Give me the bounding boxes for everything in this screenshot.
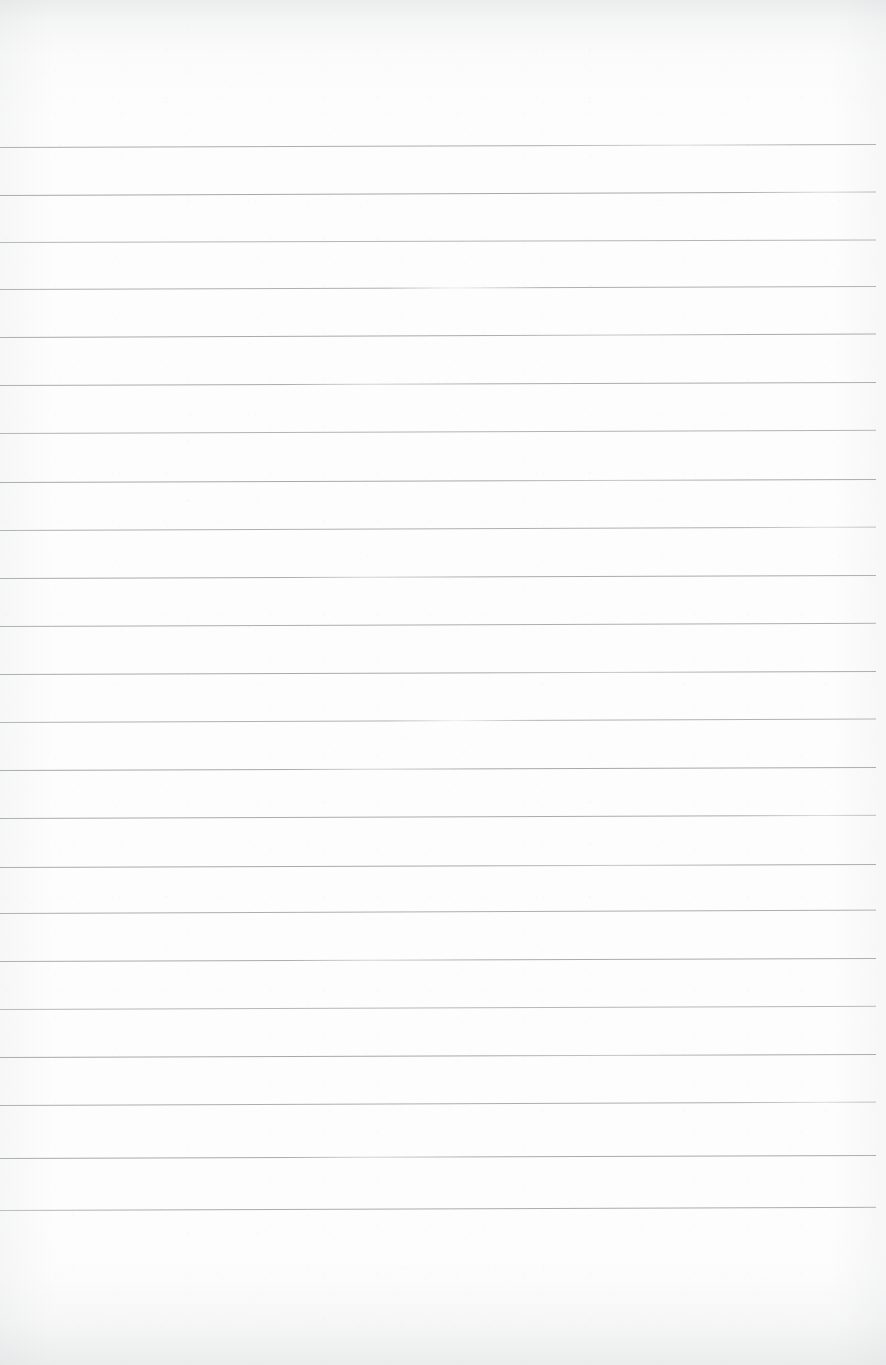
- line-fade-overlay: [0, 1153, 876, 1161]
- ruled-line: [0, 623, 876, 627]
- line-fade-overlay: [0, 621, 876, 629]
- line-fade-overlay: [0, 956, 876, 964]
- line-fade-overlay: [0, 190, 876, 198]
- line-fade-overlay: [0, 1205, 876, 1213]
- line-fade-overlay: [0, 332, 876, 340]
- ruled-line: [0, 527, 876, 531]
- line-fade-overlay: [0, 573, 876, 581]
- line-fade-overlay: [0, 428, 876, 436]
- ruled-line: [0, 910, 876, 914]
- ruled-line: [0, 382, 876, 386]
- line-fade-overlay: [0, 717, 876, 725]
- ruled-line: [0, 144, 876, 148]
- ruled-line: [0, 719, 876, 723]
- ruled-line: [0, 1102, 876, 1106]
- ruled-line: [0, 958, 876, 962]
- scanned-page: [0, 0, 886, 1365]
- ruled-line: [0, 1155, 876, 1159]
- ruled-line: [0, 864, 876, 868]
- ruled-line: [0, 240, 876, 243]
- line-fade-overlay: [0, 380, 876, 388]
- line-fade-overlay: [0, 1100, 876, 1108]
- ruled-line: [0, 575, 876, 579]
- ruled-line: [0, 286, 876, 290]
- ruled-line: [0, 430, 876, 434]
- line-fade-overlay: [0, 1005, 876, 1012]
- ruled-line: [0, 815, 876, 819]
- line-fade-overlay: [0, 1052, 876, 1060]
- ruled-line: [0, 334, 876, 338]
- ruled-line: [0, 1207, 876, 1211]
- ruled-line: [0, 767, 876, 771]
- ruled-line: [0, 1006, 876, 1010]
- ruled-lines-group: [0, 0, 886, 1365]
- line-fade-overlay: [0, 477, 876, 485]
- line-fade-overlay: [0, 238, 876, 245]
- line-fade-overlay: [0, 908, 876, 916]
- line-fade-overlay: [0, 813, 876, 821]
- ruled-line: [0, 479, 876, 483]
- ruled-line: [0, 671, 876, 675]
- line-fade-overlay: [0, 143, 876, 150]
- line-fade-overlay: [0, 285, 876, 292]
- line-fade-overlay: [0, 669, 876, 677]
- ruled-line: [0, 1054, 876, 1058]
- ruled-line: [0, 192, 876, 196]
- line-fade-overlay: [0, 525, 876, 533]
- line-fade-overlay: [0, 765, 876, 773]
- line-fade-overlay: [0, 862, 876, 870]
